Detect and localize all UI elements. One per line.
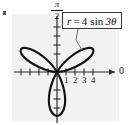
equation-argument: 3θ: [105, 15, 116, 27]
pi-denominator: 2: [50, 11, 64, 21]
equation-coefficient: 4: [82, 15, 88, 27]
equation-function: sin: [90, 15, 103, 27]
x-tick-label-2: 2: [73, 75, 78, 85]
equation-variable: r: [67, 15, 71, 27]
petal-upper-left: [21, 48, 57, 72]
x-tick-label-1: 1: [64, 75, 69, 85]
equation-callout-box[interactable]: r = 4 sin 3θ: [62, 12, 122, 29]
x-tick-label-4: 4: [91, 75, 96, 85]
vertical-axis-pi-over-two-label: π 2: [50, 0, 64, 21]
equation-equals: =: [73, 15, 79, 27]
x-tick-label-3: 3: [82, 75, 87, 85]
callout-leader-line: [76, 29, 82, 50]
x-axis-arrowhead: [109, 69, 115, 75]
petal-upper-right: [57, 48, 93, 72]
pi-numerator: π: [50, 0, 64, 10]
figure-container: r = 4 sin 3θ 0 π 2 1 2 3 4: [0, 0, 131, 125]
polar-axis-zero-label: 0: [119, 65, 124, 76]
